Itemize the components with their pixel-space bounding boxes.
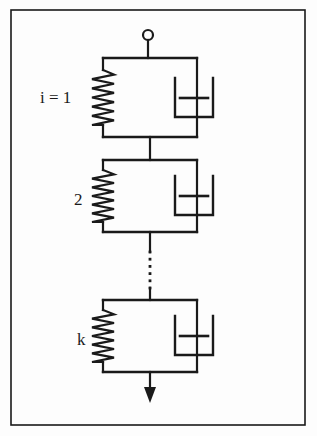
- figure-canvas: i = 12k: [0, 0, 317, 436]
- spring-zigzag: [92, 310, 114, 362]
- spring-zigzag: [92, 170, 114, 222]
- continuation-dot: [149, 251, 152, 254]
- element-k-label: k: [77, 330, 86, 349]
- element-2-label: 2: [74, 190, 83, 209]
- figure-frame: [11, 10, 305, 425]
- continuation-dot: [149, 258, 152, 261]
- continuation-dot: [149, 265, 152, 268]
- continuation-dot: [149, 272, 152, 275]
- continuation-dot: [149, 287, 152, 290]
- open-circle-node: [143, 30, 153, 40]
- element-2: 2: [74, 160, 213, 232]
- spring-zigzag: [92, 70, 114, 125]
- element-1: i = 1: [40, 58, 213, 137]
- kelvin-voigt-diagram: i = 12k: [0, 0, 317, 436]
- element-1-label: i = 1: [40, 88, 71, 107]
- element-k: k: [77, 300, 213, 372]
- continuation-dot: [149, 279, 152, 282]
- load-arrow-head: [144, 387, 156, 403]
